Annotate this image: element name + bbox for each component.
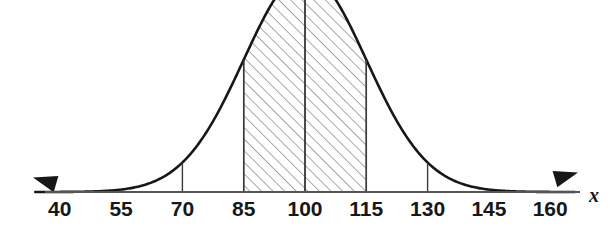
normal-distribution-figure: 40557085100115130145160 x: [0, 0, 610, 239]
x-tick-label-130: 130: [410, 197, 445, 220]
left-tail-arrowhead: [33, 176, 58, 192]
figure-canvas: 40557085100115130145160 x: [0, 0, 610, 239]
shaded-region-100-115: [305, 0, 366, 192]
x-tick-label-145: 145: [471, 197, 506, 220]
tick-drop-line-group: [60, 0, 550, 192]
x-tick-label-70: 70: [171, 197, 194, 220]
x-tick-label-100: 100: [287, 197, 322, 220]
x-tick-label-160: 160: [533, 197, 568, 220]
x-axis-label: x: [588, 184, 599, 206]
shaded-region-85-100: [244, 0, 305, 192]
x-tick-label-55: 55: [109, 197, 133, 220]
x-tick-label-115: 115: [349, 197, 383, 220]
tick-label-group: 40557085100115130145160: [48, 197, 568, 220]
x-tick-label-85: 85: [232, 197, 256, 220]
right-tail-arrowhead: [553, 171, 578, 187]
x-tick-label-40: 40: [48, 197, 71, 220]
